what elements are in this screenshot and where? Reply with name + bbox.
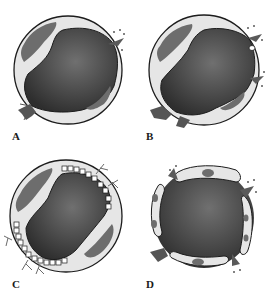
vessel-diagram-d: [136, 146, 272, 293]
panel-c: C: [0, 146, 136, 293]
vessel-diagram-b: [136, 0, 272, 146]
panel-b: B: [136, 0, 272, 146]
panel-a: A: [0, 0, 136, 146]
vessel-diagram-a: [0, 0, 136, 146]
vessel-diagram-c: [0, 146, 136, 293]
panel-label-a: A: [12, 130, 20, 142]
panel-label-d: D: [146, 278, 154, 290]
panel-label-c: C: [12, 278, 20, 290]
nucleus: [202, 169, 214, 177]
panel-label-b: B: [146, 130, 153, 142]
panel-d: D: [136, 146, 272, 293]
